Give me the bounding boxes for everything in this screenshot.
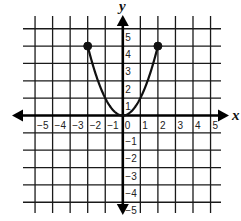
y-tick-label: 3 [125, 66, 131, 77]
x-tick-label: −4 [55, 120, 67, 131]
x-axis-label: x [231, 107, 240, 123]
y-tick-label: 2 [125, 84, 131, 95]
x-tick-label: 0 [125, 120, 131, 131]
x-tick-label: 5 [213, 120, 219, 131]
endpoint-closed-dot [154, 42, 162, 50]
y-tick-label: −4 [125, 188, 137, 199]
x-tick-label: 1 [142, 120, 148, 131]
x-tick-labels: −5−4−3−2−1012345 [37, 120, 219, 131]
x-tick-label: 2 [160, 120, 166, 131]
endpoint-closed-dot [84, 42, 92, 50]
x-tick-label: −2 [90, 120, 102, 131]
y-tick-label: −2 [125, 153, 137, 164]
y-axis-up-arrow-icon [117, 15, 129, 26]
x-tick-label: −1 [107, 120, 119, 131]
x-tick-label: 4 [195, 120, 201, 131]
y-tick-label: 4 [125, 49, 131, 60]
y-tick-label: −1 [125, 136, 137, 147]
y-tick-label: −5 [125, 205, 137, 216]
x-tick-label: −5 [37, 120, 49, 131]
y-tick-label: 5 [125, 32, 131, 43]
x-tick-label: −3 [72, 120, 84, 131]
x-axis-left-arrow-icon [12, 110, 23, 122]
y-axis-label: y [117, 0, 126, 14]
x-axis-right-arrow-icon [218, 110, 229, 122]
y-tick-label: −3 [125, 171, 137, 182]
y-tick-label: 1 [125, 101, 131, 112]
coordinate-plane: x y −5−4−3−2−1012345 54321−1−2−3−4−5 [0, 0, 241, 221]
x-tick-label: 3 [177, 120, 183, 131]
